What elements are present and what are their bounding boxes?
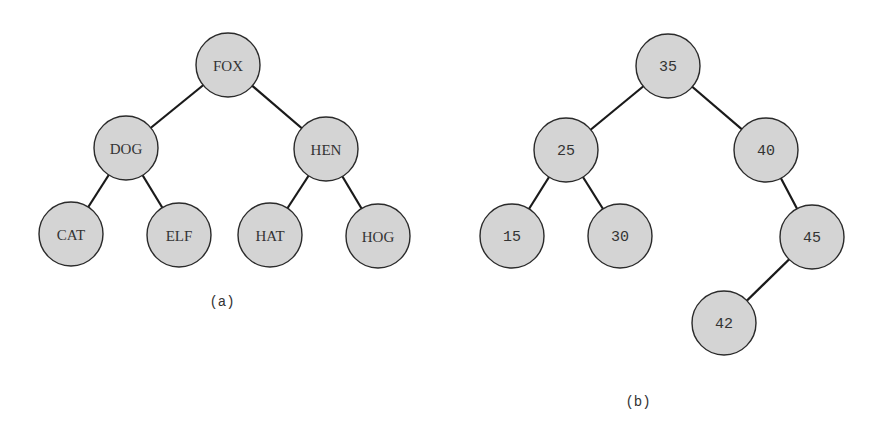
tree-node-hen: HEN: [294, 117, 358, 181]
tree-node-cat: CAT: [39, 202, 103, 266]
tree-node-n42: 42: [692, 291, 756, 355]
diagram-caption: (b): [625, 394, 650, 410]
tree-node-dog: DOG: [94, 116, 158, 180]
tree-node-n40: 40: [734, 118, 798, 182]
captions-layer: (a)(b): [209, 294, 650, 410]
tree-node-n30: 30: [588, 204, 652, 268]
node-label: HOG: [362, 229, 395, 245]
node-label: DOG: [110, 141, 143, 157]
node-label: HEN: [311, 142, 342, 158]
node-label: 42: [715, 316, 733, 333]
tree-node-n15: 15: [480, 204, 544, 268]
edges-layer: [71, 65, 812, 323]
node-label: ELF: [166, 228, 193, 244]
tree-node-n25: 25: [534, 118, 598, 182]
tree-node-hog: HOG: [346, 204, 410, 268]
binary-tree-figure: FOXDOGHENCATELFHATHOG35254015304542 (a)(…: [0, 0, 877, 425]
node-label: CAT: [57, 227, 85, 243]
node-label: 30: [611, 229, 629, 246]
tree-node-hat: HAT: [238, 203, 302, 267]
tree-node-fox: FOX: [196, 33, 260, 97]
node-label: 40: [757, 143, 775, 160]
tree-diagrams: FOXDOGHENCATELFHATHOG35254015304542 (a)(…: [0, 0, 877, 425]
node-label: HAT: [255, 228, 284, 244]
tree-node-n45: 45: [780, 205, 844, 269]
node-label: 15: [503, 229, 521, 246]
node-label: 25: [557, 143, 575, 160]
tree-node-n35: 35: [636, 34, 700, 98]
node-label: FOX: [213, 58, 243, 74]
diagram-caption: (a): [209, 294, 234, 310]
nodes-layer: FOXDOGHENCATELFHATHOG35254015304542: [39, 33, 844, 355]
node-label: 45: [803, 230, 821, 247]
node-label: 35: [659, 59, 677, 76]
tree-node-elf: ELF: [147, 203, 211, 267]
